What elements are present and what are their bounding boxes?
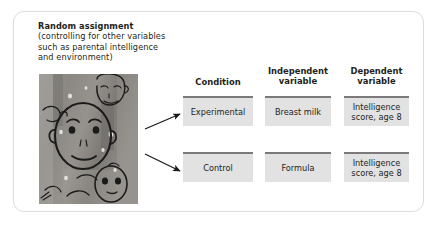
column-header-dependent-variable-line-2: variable [344,76,409,86]
cell-iv-formula: Formula [265,152,331,182]
cell-dv-intelligence-control-text: Intelligence score, age 8 [351,158,401,178]
cell-dv-intelligence-experimental: Intelligence score, age 8 [344,96,409,126]
cell-dv-exp-line-1: Intelligence [351,102,401,112]
random-assignment-heading: Random assignment (controlling for other… [38,21,248,63]
column-header-independent-variable: Independent variable [265,66,331,86]
cell-dv-ctl-line-2: score, age 8 [351,168,401,178]
heading-line-1: Random assignment [38,21,248,31]
column-header-independent-variable-line-1: Independent [265,66,331,76]
column-header-independent-variable-line-2: variable [265,76,331,86]
figure-frame: Random assignment (controlling for other… [13,11,424,212]
cell-dv-intelligence-control: Intelligence score, age 8 [344,152,409,182]
cell-dv-ctl-line-1: Intelligence [351,158,401,168]
column-header-condition-line-1: Condition [183,77,253,87]
cell-condition-control-text: Control [203,163,233,173]
cell-dv-exp-line-2: score, age 8 [351,112,401,122]
heading-line-2: (controlling for other variables [38,31,248,41]
heading-line-3: such as parental intelligence [38,42,248,52]
arrow-to-control [145,154,180,171]
column-header-condition: Condition [183,77,253,87]
participants-photo [39,74,138,204]
cell-condition-experimental: Experimental [183,96,253,126]
cell-dv-intelligence-experimental-text: Intelligence score, age 8 [351,102,401,122]
heading-line-4: and environment) [38,52,248,62]
cell-condition-experimental-text: Experimental [191,107,246,117]
cell-iv-formula-text: Formula [281,163,314,173]
column-header-dependent-variable-line-1: Dependent [344,66,409,76]
cell-iv-breast-milk-text: Breast milk [275,107,321,117]
arrow-to-experimental [145,114,180,129]
cell-iv-breast-milk: Breast milk [265,96,331,126]
cell-condition-control: Control [183,152,253,182]
column-header-dependent-variable: Dependent variable [344,66,409,86]
